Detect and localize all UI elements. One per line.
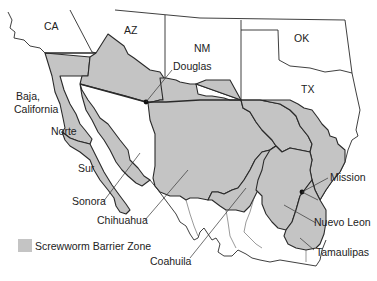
label-state-ca: CA — [44, 20, 59, 32]
legend: Screwworm Barrier Zone — [18, 239, 151, 252]
label-state-az: AZ — [124, 24, 138, 36]
border-north — [115, 10, 345, 20]
legend-swatch — [18, 239, 32, 252]
label-tamaulipas: Tamaulipas — [316, 246, 369, 258]
screwworm-barrier-zone-map: CA AZ NM OK TX Baja, California Norte Su… — [0, 0, 377, 281]
label-nuevo-leon: Nuevo Leon — [314, 216, 371, 228]
border-ca-az — [70, 10, 96, 53]
label-coahuila: Coahuila — [150, 255, 192, 267]
label-norte: Norte — [51, 125, 77, 137]
legend-label: Screwworm Barrier Zone — [35, 240, 151, 252]
label-state-ok: OK — [294, 32, 309, 44]
border-tx-east — [345, 73, 360, 162]
border-ca-coast — [8, 12, 45, 53]
label-state-tx: TX — [301, 83, 314, 95]
label-baja-california-line1: Baja, — [16, 90, 40, 102]
label-city-douglas: Douglas — [173, 60, 212, 72]
border-mexico-inner-2 — [226, 210, 236, 248]
label-sur: Sur — [78, 162, 95, 174]
border-ok-east — [345, 20, 352, 73]
label-sonora: Sonora — [72, 195, 106, 207]
label-state-nm: NM — [194, 42, 210, 54]
label-baja-california-line2: California — [14, 103, 59, 115]
label-chihuahua: Chihuahua — [97, 214, 148, 226]
label-city-mission: Mission — [330, 171, 366, 183]
